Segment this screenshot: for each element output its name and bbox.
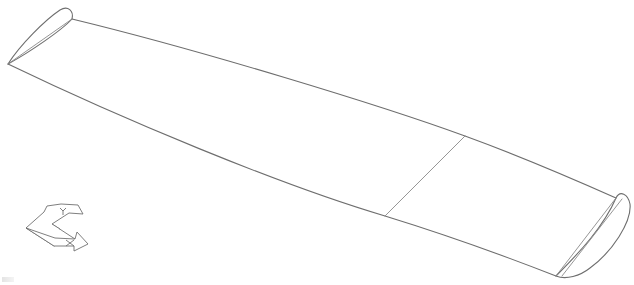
wing-model[interactable] [8,8,630,277]
corner-watermark [2,277,14,282]
coordinate-triad [26,204,88,251]
y-axis-arrow-icon [26,204,83,229]
trailing-edge[interactable] [8,64,556,276]
tip-airfoil-chord [556,198,616,276]
spanwise-section-line[interactable] [385,136,465,216]
root-airfoil-outline[interactable] [8,8,72,64]
root-airfoil-chord [8,19,72,64]
leading-edge[interactable] [72,19,616,198]
wing-drawing [0,0,634,285]
cad-viewport[interactable] [0,0,634,285]
tip-airfoil-chord-secondary [562,199,622,276]
